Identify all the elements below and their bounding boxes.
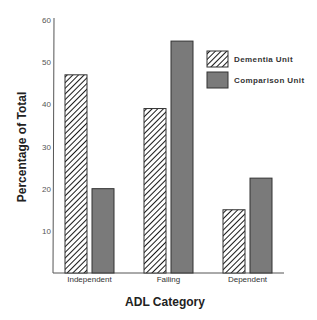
x-tick-label: Independent: [67, 275, 112, 284]
bar-comparison-unit: [171, 41, 193, 273]
legend-label-comparison: Comparison Unit: [234, 76, 304, 85]
y-tick-label: 60: [42, 16, 51, 25]
x-tick-label: Dependent: [228, 275, 268, 284]
legend: Dementia Unit Comparison Unit: [207, 51, 304, 88]
y-tick-label: 10: [42, 227, 51, 236]
x-axis-title: ADL Category: [125, 295, 205, 309]
y-axis: 102030405060: [42, 16, 54, 273]
bar-dementia-unit: [223, 210, 245, 273]
legend-label-dementia: Dementia Unit: [234, 55, 293, 64]
y-tick-label: 40: [42, 100, 51, 109]
legend-swatch-comparison: [207, 72, 228, 88]
y-axis-line: [53, 18, 54, 273]
bar-dementia-unit: [144, 109, 166, 273]
bar-comparison-unit: [92, 189, 114, 273]
y-tick-label: 50: [42, 58, 51, 67]
category-labels: IndependentFailingDependent: [67, 275, 268, 284]
bar-chart: 102030405060 IndependentFailingDependent…: [0, 0, 317, 320]
y-tick-label: 20: [42, 185, 51, 194]
bar-dementia-unit: [65, 75, 87, 273]
legend-swatch-dementia: [207, 51, 228, 67]
y-tick-label: 30: [42, 143, 51, 152]
bar-comparison-unit: [250, 178, 272, 273]
x-tick-label: Failing: [157, 275, 181, 284]
y-axis-title: Percentage of Total: [15, 92, 29, 202]
